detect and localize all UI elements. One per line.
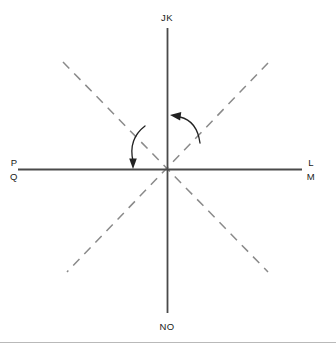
label-right-lower: M	[307, 171, 315, 182]
label-left-lower: Q	[10, 171, 18, 182]
label-left-upper: P	[11, 157, 18, 168]
dashed-line-nw-se	[63, 62, 268, 272]
geometry-figure: JK NO P Q L M	[0, 0, 336, 353]
angle-arc-right-arrowhead	[170, 112, 181, 121]
label-top: JK	[161, 12, 173, 23]
label-bottom: NO	[159, 321, 174, 332]
label-right-upper: L	[308, 157, 314, 168]
angle-arc-right	[180, 117, 200, 143]
diagram-canvas: JK NO P Q L M	[0, 0, 336, 353]
angle-arc-left-arrowhead	[129, 159, 137, 170]
